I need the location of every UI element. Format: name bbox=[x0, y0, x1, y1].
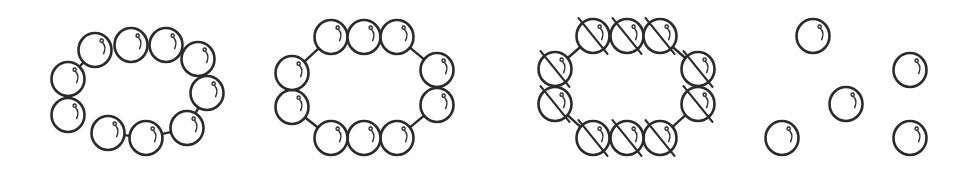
figures-root bbox=[52, 18, 927, 156]
bond-line bbox=[409, 115, 424, 128]
bead bbox=[315, 20, 348, 54]
bead bbox=[894, 121, 927, 155]
bond-line bbox=[305, 117, 319, 128]
slashed-bead bbox=[644, 120, 677, 156]
bead bbox=[191, 76, 224, 110]
slashed-bead bbox=[539, 51, 572, 87]
bead-circle-icon bbox=[830, 87, 863, 121]
bead bbox=[79, 33, 112, 67]
bead-circle-icon bbox=[381, 121, 414, 155]
bead bbox=[830, 87, 863, 121]
bead-circle-icon bbox=[52, 98, 85, 132]
bead bbox=[52, 62, 85, 96]
bead-circle-icon bbox=[171, 111, 204, 145]
bead-circle-icon bbox=[191, 76, 224, 110]
bead bbox=[150, 28, 183, 62]
bead-circle-icon bbox=[348, 20, 381, 54]
bead bbox=[894, 53, 927, 87]
bead-circle-icon bbox=[276, 90, 309, 124]
bead-circle-icon bbox=[150, 28, 183, 62]
bead bbox=[52, 98, 85, 132]
bead bbox=[348, 20, 381, 54]
slashed-bead bbox=[611, 120, 644, 156]
bead bbox=[381, 121, 414, 155]
bead bbox=[797, 19, 830, 53]
figure-free-beads bbox=[766, 19, 927, 155]
slashed-bead bbox=[539, 86, 572, 122]
bead bbox=[421, 53, 454, 87]
slashed-bead bbox=[577, 120, 610, 156]
bead-circle-icon bbox=[797, 19, 830, 53]
bead-circle-icon bbox=[182, 42, 215, 76]
bead bbox=[421, 88, 454, 122]
bead-circle-icon bbox=[92, 116, 125, 150]
bead-ring-diagram bbox=[0, 0, 970, 175]
bead bbox=[130, 121, 163, 155]
bead bbox=[766, 121, 799, 155]
bond-line bbox=[672, 115, 686, 128]
bead-circle-icon bbox=[115, 28, 148, 62]
figure-ring-10-rect bbox=[276, 20, 454, 155]
bead-circle-icon bbox=[348, 121, 381, 155]
bead-circle-icon bbox=[79, 33, 112, 67]
bead-circle-icon bbox=[315, 121, 348, 155]
bond-line bbox=[567, 46, 581, 58]
bead bbox=[276, 90, 309, 124]
bead bbox=[182, 42, 215, 76]
slashed-bead bbox=[611, 18, 644, 54]
figure-ring-10-oval bbox=[52, 28, 224, 155]
slashed-bead bbox=[682, 86, 715, 122]
slashed-bead bbox=[682, 51, 715, 87]
bead bbox=[171, 111, 204, 145]
bead bbox=[115, 28, 148, 62]
bead-circle-icon bbox=[421, 53, 454, 87]
bead-circle-icon bbox=[381, 20, 414, 54]
bead bbox=[348, 121, 381, 155]
bead bbox=[92, 116, 125, 150]
bead-circle-icon bbox=[766, 121, 799, 155]
slashed-bead bbox=[577, 18, 610, 54]
bead-circle-icon bbox=[894, 121, 927, 155]
bead-circle-icon bbox=[52, 62, 85, 96]
bead-circle-icon bbox=[130, 121, 163, 155]
figure-ring-10-rect-slashed bbox=[539, 18, 715, 156]
bond-line bbox=[304, 48, 319, 62]
bond-line bbox=[409, 47, 424, 60]
bead bbox=[276, 56, 309, 90]
slashed-bead bbox=[644, 18, 677, 54]
bead bbox=[315, 121, 348, 155]
bead-circle-icon bbox=[421, 88, 454, 122]
bead-circle-icon bbox=[894, 53, 927, 87]
bead-circle-icon bbox=[315, 20, 348, 54]
bead bbox=[381, 20, 414, 54]
bead-circle-icon bbox=[276, 56, 309, 90]
